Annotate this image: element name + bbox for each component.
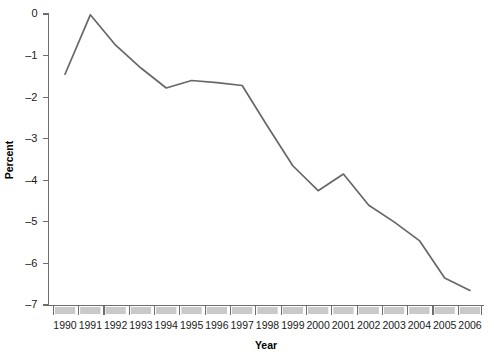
x-axis-tick-box xyxy=(55,307,75,314)
y-axis-tick-label: –5 xyxy=(25,215,37,227)
x-axis-tick-box xyxy=(257,307,277,314)
x-axis-tick-label: 1991 xyxy=(79,319,103,331)
x-axis-tick-label: 1992 xyxy=(104,319,128,331)
x-axis-tick-label: 1993 xyxy=(129,319,153,331)
x-axis-tick-box xyxy=(283,307,303,314)
x-axis-tick-box xyxy=(131,307,151,314)
x-axis-tick-box xyxy=(181,307,201,314)
x-axis-tick-box xyxy=(105,307,125,314)
x-axis-tick-label: 1996 xyxy=(205,319,229,331)
x-axis-tick-label: 1999 xyxy=(281,319,305,331)
x-axis-tick-box xyxy=(435,307,455,314)
x-axis-tick-label: 2001 xyxy=(332,319,356,331)
x-axis-tick-box xyxy=(80,307,100,314)
x-axis-tick-label: 1994 xyxy=(155,319,179,331)
y-axis-tick-label: 0 xyxy=(31,7,37,19)
x-axis-tick-box xyxy=(232,307,252,314)
x-axis-tick-label: 1998 xyxy=(256,319,280,331)
x-axis-tick-boxes xyxy=(53,306,481,315)
x-axis-tick-box xyxy=(460,307,480,314)
y-axis-tick-label: –7 xyxy=(25,298,37,310)
line-chart: 0–1–2–3–4–5–6–7 199019911992199319941995… xyxy=(0,0,494,355)
x-axis-tick-box xyxy=(207,307,227,314)
y-axis-tick-label: –1 xyxy=(25,49,37,61)
x-axis-tick-box xyxy=(308,307,328,314)
chart-canvas: 0–1–2–3–4–5–6–7 199019911992199319941995… xyxy=(0,0,494,355)
x-axis-tick-label: 2002 xyxy=(357,319,381,331)
y-axis-tick-label: –3 xyxy=(25,132,37,144)
x-axis-tick-label: 1995 xyxy=(180,319,204,331)
y-axis-tick-labels: 0–1–2–3–4–5–6–7 xyxy=(25,7,37,310)
x-axis-tick-box xyxy=(384,307,404,314)
y-axis-title: Percent xyxy=(3,140,15,179)
y-axis-tick-label: –4 xyxy=(25,174,37,186)
x-axis-title: Year xyxy=(255,339,277,351)
x-axis-tick-label: 1997 xyxy=(231,319,255,331)
y-axis-tick-label: –6 xyxy=(25,257,37,269)
x-axis-tick-box xyxy=(333,307,353,314)
x-axis-tick-box xyxy=(156,307,176,314)
y-axis-ticks xyxy=(43,14,49,305)
x-axis-tick-label: 1990 xyxy=(53,319,77,331)
x-axis-tick-label: 2006 xyxy=(458,319,482,331)
x-axis-tick-label: 2000 xyxy=(306,319,330,331)
x-axis-tick-box xyxy=(409,307,429,314)
x-axis-tick-box xyxy=(359,307,379,314)
x-axis-tick-label: 2003 xyxy=(382,319,406,331)
x-axis-tick-labels: 1990199119921993199419951996199719981999… xyxy=(53,319,482,331)
y-axis-tick-label: –2 xyxy=(25,91,37,103)
x-axis-tick-label: 2004 xyxy=(408,319,432,331)
data-series-line xyxy=(65,15,470,291)
x-axis-tick-label: 2005 xyxy=(433,319,457,331)
